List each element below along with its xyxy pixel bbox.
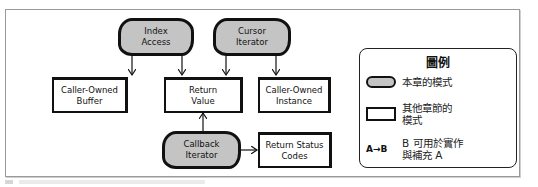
node-label: Caller-Owned: [265, 85, 322, 95]
node-return-status-codes: Return StatusCodes: [258, 132, 332, 168]
node-label: Caller-Owned: [61, 85, 118, 95]
node-label: Value: [191, 96, 214, 106]
legend-text: 其他章節的模式: [402, 102, 452, 126]
node-label: Iterator: [236, 37, 268, 47]
legend-text: B 可用於實作與補充 A: [402, 137, 463, 161]
node-caller-owned-instance: Caller-OwnedInstance: [258, 77, 331, 113]
arrow-symbol-icon: A→B: [366, 144, 396, 154]
node-label: Instance: [276, 96, 312, 106]
legend-text-line: B 可用於實作: [402, 137, 463, 149]
legend-text: 本章的模式: [402, 76, 452, 88]
legend-row-this-chapter: 本章的模式: [366, 76, 452, 88]
node-label: Callback: [183, 139, 219, 149]
node-label: Access: [141, 37, 170, 47]
node-label: Return: [189, 85, 217, 95]
node-label: Cursor: [238, 26, 266, 36]
node-label: Return Status: [266, 140, 324, 150]
legend-text-line: 模式: [402, 114, 422, 126]
node-label: Codes: [281, 151, 307, 161]
cut-off-caption: [5, 180, 205, 184]
box-swatch-icon: [366, 107, 396, 121]
node-callback-iterator: CallbackIterator: [162, 131, 241, 169]
node-label: Index: [144, 26, 167, 36]
node-caller-owned-buffer: Caller-OwnedBuffer: [52, 77, 128, 113]
legend-title: 圖例: [360, 53, 516, 70]
node-index-access: IndexAccess: [118, 18, 194, 56]
node-label: Iterator: [186, 150, 218, 160]
node-return-value: ReturnValue: [164, 77, 243, 113]
legend-row-arrow: A→B B 可用於實作與補充 A: [366, 137, 463, 161]
legend-text-line: 其他章節的: [402, 102, 452, 114]
legend: 圖例 本章的模式 其他章節的模式 A→B B 可用於實作與補充 A: [359, 48, 517, 168]
node-cursor-iterator: CursorIterator: [213, 18, 291, 56]
legend-row-other-chapter: 其他章節的模式: [366, 102, 452, 126]
node-label: Buffer: [77, 96, 103, 106]
pattern-swatch-icon: [366, 76, 396, 88]
legend-text-line: 與補充 A: [402, 149, 443, 161]
